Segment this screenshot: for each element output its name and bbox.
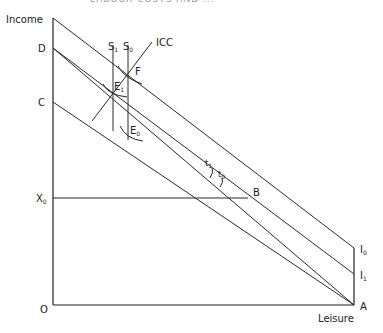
labour-leisure-diagram: Income D C X0 O Leisure I0 I1 A S1 S0 IC… bbox=[0, 0, 383, 333]
point-B-label: B bbox=[253, 187, 260, 198]
icc-line bbox=[92, 42, 152, 121]
origin-label: O bbox=[40, 304, 48, 315]
line-D-A-through-B bbox=[53, 48, 354, 305]
budget-line-D-I1 bbox=[53, 48, 354, 274]
point-I1-label: I1 bbox=[360, 270, 367, 282]
point-X0-label: X0 bbox=[36, 193, 47, 205]
point-E1-label: E1 bbox=[114, 81, 124, 93]
point-C-label: C bbox=[38, 97, 45, 108]
income-axis-label: Income bbox=[6, 14, 43, 25]
point-D-label: D bbox=[38, 43, 46, 54]
icc-label: ICC bbox=[156, 37, 173, 48]
point-F-label: F bbox=[135, 66, 141, 77]
angle-arc-t1 bbox=[210, 168, 213, 178]
point-I0-label: I0 bbox=[360, 244, 367, 256]
point-E0-label: E0 bbox=[130, 125, 140, 137]
angle-t0-label: t0 bbox=[218, 170, 225, 180]
S0-label: S0 bbox=[123, 41, 133, 53]
S1-label: S1 bbox=[108, 41, 118, 53]
leisure-axis-label: Leisure bbox=[318, 313, 354, 324]
point-A-label: A bbox=[360, 301, 367, 312]
angle-t1-label: t1 bbox=[205, 159, 212, 169]
